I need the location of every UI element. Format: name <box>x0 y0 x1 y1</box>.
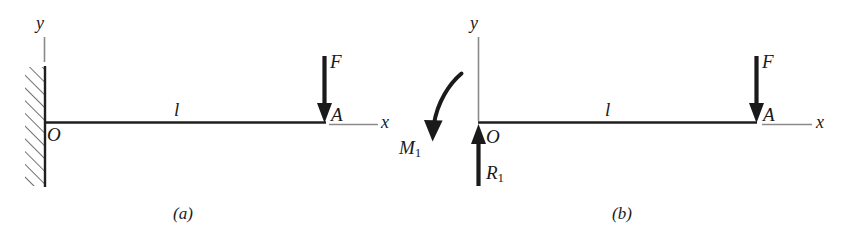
panel-b-length-label: l <box>605 100 610 119</box>
panel-b-reaction-moment-symbol: M <box>399 137 415 158</box>
panel-b-free-end-label: A <box>763 105 775 124</box>
figure-container: y O l F A x (a) y O R1 M1 l F A x (b) <box>0 0 842 243</box>
panel-a-caption: (a) <box>173 205 193 222</box>
panel-b-reaction-force-symbol: R <box>486 162 498 183</box>
panel-a-origin-label: O <box>47 125 61 144</box>
panel-b-caption: (b) <box>612 205 632 222</box>
panel-b-reaction-moment-arrow <box>424 74 462 142</box>
panel-b-x-axis-label: x <box>816 113 824 131</box>
panel-b-reaction-force-arrow <box>471 124 486 186</box>
panel-a-y-axis-label: y <box>36 14 44 32</box>
panel-b-y-axis-label: y <box>470 14 478 32</box>
panel-a-fixed-support <box>25 66 45 187</box>
panel-a-force-label: F <box>330 52 342 71</box>
panel-a-x-axis-label: x <box>381 113 389 131</box>
panel-b-reaction-moment-subscript: 1 <box>415 145 421 160</box>
beam-diagram-svg <box>0 0 842 243</box>
panel-b-reaction-force-subscript: 1 <box>498 170 504 185</box>
panel-a-length-label: l <box>174 100 179 119</box>
panel-a-free-end-label: A <box>331 105 343 124</box>
panel-b-reaction-force-label: R1 <box>486 163 504 182</box>
panel-b-force-label: F <box>762 52 774 71</box>
panel-b-reaction-moment-label: M1 <box>399 138 421 157</box>
panel-b-origin-label: O <box>486 127 500 146</box>
